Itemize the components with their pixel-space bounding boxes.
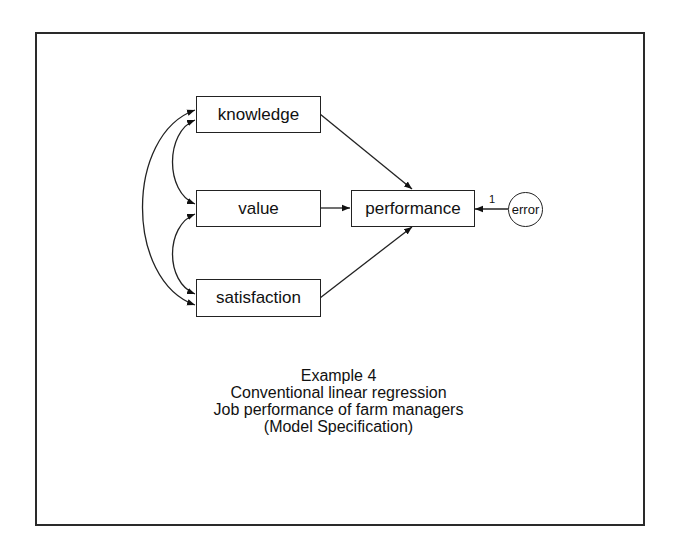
node-value: value — [196, 190, 321, 227]
arrow-satisfaction-performance — [320, 227, 412, 298]
covariance-knowledge-satisfaction — [143, 110, 196, 305]
arrow-knowledge-performance — [320, 114, 412, 189]
caption-line-2: Conventional linear regression — [0, 384, 677, 401]
covariance-value-satisfaction — [173, 214, 196, 294]
node-performance: performance — [351, 190, 475, 227]
caption-line-4: (Model Specification) — [0, 418, 677, 435]
node-knowledge: knowledge — [196, 96, 321, 133]
node-value-label: value — [238, 199, 279, 219]
error-path-weight: 1 — [489, 193, 495, 205]
caption-line-3: Job performance of farm managers — [0, 401, 677, 418]
path-arrows — [0, 0, 677, 554]
covariance-knowledge-value — [173, 120, 196, 204]
node-satisfaction: satisfaction — [196, 279, 321, 317]
node-satisfaction-label: satisfaction — [216, 288, 301, 308]
node-error-label: error — [512, 202, 539, 217]
diagram-caption: Example 4 Conventional linear regression… — [0, 367, 677, 435]
node-performance-label: performance — [365, 199, 460, 219]
node-error: error — [508, 192, 543, 227]
caption-line-1: Example 4 — [0, 367, 677, 384]
node-knowledge-label: knowledge — [218, 105, 299, 125]
